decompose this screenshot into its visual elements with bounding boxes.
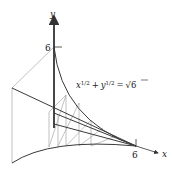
eq-plus: + [92,80,99,90]
solid-diagram: y 6 6 x x1/2+y1/2=√6 [0,0,172,171]
y-tick-6: 6 [45,43,51,53]
solid-edges [12,47,136,163]
x-axis-label: x [162,149,167,159]
y-axis-label: y [49,9,56,19]
eq-y-exp: 1/2 [106,80,115,86]
eq-x-exp: 1/2 [81,80,90,86]
x-axis: 6 x [132,139,167,160]
eq-rhs: 6 [131,80,136,90]
x-tick-6: 6 [132,150,138,160]
bottom-curve [12,144,136,163]
svg-text:x1/2+y1/2=√6: x1/2+y1/2=√6 [76,80,136,91]
eq-equals: = [116,80,123,90]
curve-equation: x1/2+y1/2=√6 [76,80,148,91]
